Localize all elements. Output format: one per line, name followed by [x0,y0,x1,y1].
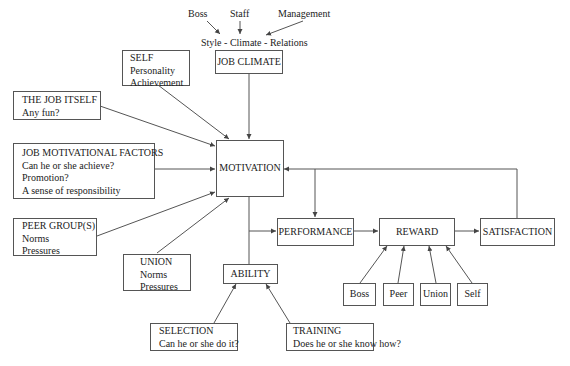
management-label: Management [278,8,330,19]
reward-source-self: Self [457,283,488,306]
selection-line: Can he or she do it? [159,338,229,351]
union-line: Norms [140,269,174,282]
union-title: UNION [140,256,174,269]
union-line: Pressures [140,281,174,294]
reward-source-label: Boss [350,288,369,301]
ability-title: ABILITY [231,268,271,281]
job-motivational-factors-line: Can he or she achieve? [22,160,146,173]
job-climate-box: JOB CLIMATE [215,50,283,74]
reward-title: REWARD [396,226,438,239]
job-itself-line: Any fun? [22,107,92,120]
motivation-box: MOTIVATION [216,140,284,197]
reward-source-label: Self [464,288,480,301]
performance-box: PERFORMANCE [277,218,354,246]
training-line: Does he or she know how? [293,338,367,351]
self-line: Achievement [130,77,182,90]
reward-source-peer: Peer [383,283,414,306]
ability-box: ABILITY [223,264,278,284]
reward-source-union: Union [420,283,451,306]
job-motivational-factors-box: JOB MOTIVATIONAL FACTORS Can he or she a… [13,143,155,199]
training-title: TRAINING [293,325,367,338]
style-climate-relations-label: Style - Climate - Relations [201,37,308,48]
selection-box: SELECTION Can he or she do it? [150,323,238,351]
job-motivational-factors-title: JOB MOTIVATIONAL FACTORS [22,147,146,160]
training-box: TRAINING Does he or she know how? [286,323,374,351]
reward-box: REWARD [379,218,455,246]
self-line: Personality [130,65,182,78]
reward-source-label: Peer [390,288,408,301]
peer-groups-title: PEER GROUP(S) [22,220,88,233]
self-title: SELF [130,52,182,65]
reward-source-boss: Boss [343,283,376,306]
boss-label: Boss [188,8,207,19]
selection-title: SELECTION [159,325,229,338]
motivation-title: MOTIVATION [219,162,280,175]
performance-title: PERFORMANCE [279,226,353,239]
reward-source-label: Union [423,288,448,301]
staff-label: Staff [230,8,249,19]
job-motivational-factors-line: Promotion? [22,172,146,185]
peer-groups-line: Pressures [22,245,88,258]
satisfaction-title: SATISFACTION [483,226,552,239]
union-box: UNION Norms Pressures [123,254,191,291]
job-motivational-factors-line: A sense of responsibility [22,185,146,198]
peer-groups-line: Norms [22,233,88,246]
job-itself-box: THE JOB ITSELF Any fun? [13,91,101,120]
satisfaction-box: SATISFACTION [480,218,555,246]
peer-groups-box: PEER GROUP(S) Norms Pressures [13,218,97,256]
job-itself-title: THE JOB ITSELF [22,94,92,107]
job-climate-title: JOB CLIMATE [217,56,281,69]
self-box: SELF Personality Achievement [122,50,190,86]
